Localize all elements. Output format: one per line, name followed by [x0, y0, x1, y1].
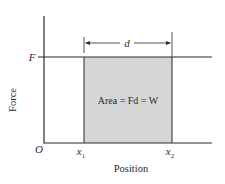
x1-label: x1: [76, 145, 86, 160]
force-position-diagram: d F Area = Fd = W O x1 x2 Position Force: [0, 0, 225, 184]
arrowhead-right-icon: [166, 41, 171, 45]
arrowhead-left-icon: [85, 41, 90, 45]
distance-label: d: [124, 37, 130, 49]
y-axis-label: Force: [7, 88, 18, 112]
x-axis-label: Position: [114, 163, 149, 174]
origin-label: O: [35, 143, 43, 155]
area-label: Area = Fd = W: [98, 95, 159, 106]
force-level-label: F: [28, 51, 36, 63]
x2-label: x2: [165, 145, 175, 160]
